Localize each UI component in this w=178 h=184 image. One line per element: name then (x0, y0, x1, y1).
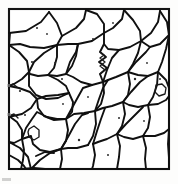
inclusion-dot (159, 78, 161, 80)
inclusion-dot (146, 62, 148, 64)
inclusion-dot (36, 27, 38, 29)
inclusion-dot (134, 78, 136, 80)
edge-smudge-mark (7, 84, 10, 87)
inclusion-dot (118, 117, 120, 119)
grain-structure-drawing (0, 0, 178, 184)
grain-boundary-segment (168, 129, 169, 169)
inclusion-dot (61, 78, 63, 80)
inclusion-dot (107, 154, 109, 156)
caption-fragment-mark (2, 178, 11, 181)
inclusion-dot (54, 62, 56, 64)
inclusion-dot (87, 96, 89, 98)
inclusion-dot (112, 22, 114, 24)
edge-smudge-mark (7, 113, 11, 116)
inclusion-dot (24, 114, 26, 116)
grain-boundary-segment (9, 33, 10, 45)
inclusion-dot (92, 38, 94, 40)
inclusion-dot (143, 120, 145, 122)
inclusion-dot (46, 33, 48, 35)
caption-fragment-group (2, 178, 11, 181)
inclusion-dot (31, 61, 33, 63)
inclusion-dot (78, 139, 80, 141)
inclusion-dot (62, 103, 64, 105)
inclusion-dot (19, 90, 21, 92)
grain-structure-figure (0, 0, 178, 184)
